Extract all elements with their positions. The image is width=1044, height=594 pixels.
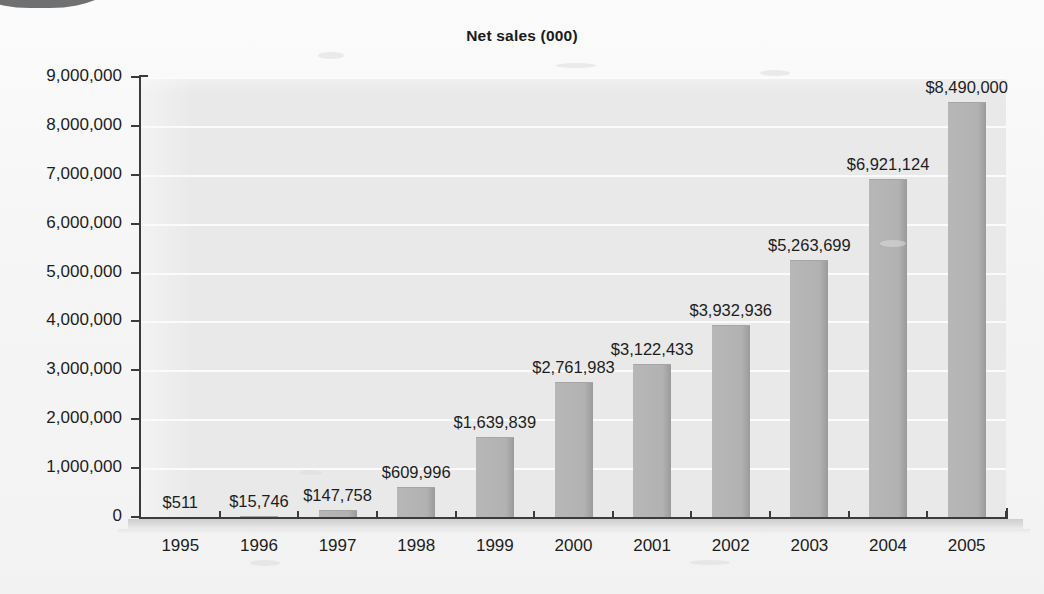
y-axis-tick	[131, 320, 140, 322]
x-axis-tick	[848, 511, 850, 519]
bar-value-label: $2,761,983	[499, 358, 649, 377]
y-axis-label: 1,000,000	[0, 457, 122, 477]
gridline	[141, 175, 1006, 177]
x-axis-tick	[690, 511, 692, 519]
x-axis-tick	[769, 511, 771, 519]
x-axis-label: 1995	[140, 536, 220, 556]
y-axis-tick	[131, 467, 140, 469]
bar-value-label: $6,921,124	[813, 155, 963, 174]
gridline	[141, 126, 1006, 128]
scan-speckle	[760, 70, 790, 76]
x-axis-label: 2000	[534, 536, 614, 556]
y-axis-label: 5,000,000	[0, 262, 122, 282]
y-axis-label: 8,000,000	[0, 115, 122, 135]
x-axis-label: 2001	[612, 536, 692, 556]
x-axis-tick	[533, 511, 535, 519]
x-axis-tick	[455, 511, 457, 519]
y-axis-tick	[131, 223, 140, 225]
y-axis-label: 4,000,000	[0, 310, 122, 330]
bar	[555, 382, 593, 518]
scan-speckle	[300, 470, 322, 475]
x-axis-tick	[1005, 511, 1007, 519]
y-axis-label: 0	[0, 506, 122, 526]
page-corner-artifact	[0, 0, 120, 8]
scan-speckle	[250, 560, 280, 566]
bar	[633, 364, 671, 518]
bar-value-label: $3,932,936	[656, 301, 806, 320]
chart-base-shadow-lower	[118, 529, 1030, 534]
bar-value-label: $147,758	[263, 486, 413, 505]
y-axis-label: 6,000,000	[0, 213, 122, 233]
x-axis-label: 2005	[927, 536, 1007, 556]
y-axis-tick	[131, 418, 140, 420]
y-axis-label: 9,000,000	[0, 66, 122, 86]
gridline	[141, 77, 1006, 79]
bar	[790, 260, 828, 518]
y-axis-top-cap	[139, 75, 148, 77]
x-axis-label: 2002	[691, 536, 771, 556]
x-axis-label: 2004	[848, 536, 928, 556]
bar-value-label: $5,263,699	[734, 236, 884, 255]
x-axis-tick	[219, 511, 221, 519]
x-axis-tick	[926, 511, 928, 519]
y-axis-tick	[131, 272, 140, 274]
y-axis-line	[139, 75, 141, 519]
y-axis-label: 7,000,000	[0, 164, 122, 184]
chart-title: Net sales (000)	[0, 27, 1044, 45]
y-axis-tick	[131, 516, 140, 518]
bar-value-label: $609,996	[341, 463, 491, 482]
scan-speckle	[556, 63, 596, 68]
y-axis-tick	[131, 369, 140, 371]
x-axis-label: 1999	[455, 536, 535, 556]
bar-value-label: $3,122,433	[577, 340, 727, 359]
scan-speckle	[690, 560, 730, 565]
x-axis-label: 2003	[769, 536, 849, 556]
x-axis-label: 1998	[376, 536, 456, 556]
x-axis-tick	[297, 511, 299, 519]
x-axis-label: 1996	[219, 536, 299, 556]
y-axis-tick	[131, 76, 140, 78]
bar-value-label: $8,490,000	[892, 78, 1042, 97]
x-axis-label: 1997	[298, 536, 378, 556]
x-axis-tick	[376, 511, 378, 519]
plot-area	[141, 77, 1006, 517]
bar-value-label: $1,639,839	[420, 413, 570, 432]
y-axis-tick	[131, 174, 140, 176]
y-axis-label: 2,000,000	[0, 408, 122, 428]
page-background: Net sales (000) 9,000,0008,000,0007,000,…	[0, 0, 1044, 594]
scan-speckle	[318, 52, 344, 59]
y-axis-label: 3,000,000	[0, 359, 122, 379]
scan-speckle	[880, 240, 906, 247]
bar	[869, 179, 907, 518]
y-axis-tick	[131, 125, 140, 127]
x-axis-tick	[612, 511, 614, 519]
